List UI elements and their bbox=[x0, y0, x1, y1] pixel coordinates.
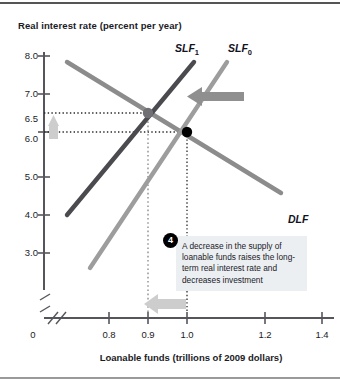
interest-rate-rise-arrow bbox=[48, 115, 59, 139]
y-axis-break-mark-2 bbox=[40, 306, 50, 312]
equilibrium-point-new bbox=[143, 108, 153, 118]
callout-text: A decrease in the supply of loanable fun… bbox=[182, 241, 302, 286]
equilibrium-point-original bbox=[182, 127, 192, 137]
supply-shift-arrow bbox=[187, 87, 244, 106]
y-axis-break-mark-1 bbox=[40, 294, 50, 300]
callout-box: A decrease in the supply of loanable fun… bbox=[176, 236, 307, 291]
callout-badge: 4 bbox=[163, 233, 178, 248]
plot-area bbox=[0, 0, 340, 379]
loanable-funds-market-figure: Real interest rate (percent per year) Lo… bbox=[0, 0, 340, 379]
investment-decrease-arrow bbox=[144, 294, 186, 314]
